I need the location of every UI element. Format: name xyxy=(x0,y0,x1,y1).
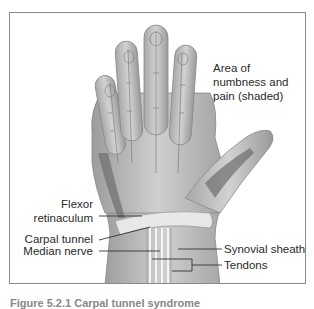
figure-caption: Figure 5.2.1 Carpal tunnel syndrome xyxy=(10,297,200,309)
label-synovial-sheath: Synovial sheath xyxy=(224,242,305,256)
label-area-line-2: numbness and xyxy=(213,75,288,89)
label-area-line-3: pain (shaded) xyxy=(213,89,288,103)
diagram-frame: Area of numbness and pain (shaded) Flexo… xyxy=(9,12,306,284)
label-area-line-1: Area of xyxy=(213,61,288,75)
label-flexor-line-1: Flexor xyxy=(34,197,93,211)
label-area-numbness: Area of numbness and pain (shaded) xyxy=(213,61,288,103)
label-flexor-line-2: retinaculum xyxy=(34,211,93,225)
label-median-nerve: Median nerve xyxy=(23,244,93,258)
label-tendons: Tendons xyxy=(224,258,267,272)
label-flexor-retinaculum: Flexor retinaculum xyxy=(34,197,93,225)
